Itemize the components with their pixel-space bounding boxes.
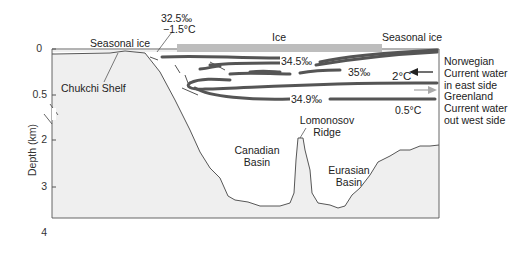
legend-norwegian-current: Norwegian Current water in east side bbox=[444, 55, 508, 91]
label-lomonosov-ridge: Lomonosov Ridge bbox=[296, 114, 358, 138]
tick-4: 4 bbox=[25, 226, 47, 238]
y-axis-label: Depth (km) bbox=[26, 124, 38, 176]
label-salinity-34-9: 34.9‰ bbox=[290, 93, 323, 105]
tick-0: 0 bbox=[20, 42, 42, 54]
label-seasonal-ice-right: Seasonal ice bbox=[382, 31, 442, 43]
label-temp-2: 2°C bbox=[392, 70, 411, 82]
label-inflow-temp: −1.5°C bbox=[163, 23, 196, 35]
label-chukchi-shelf: Chukchi Shelf bbox=[61, 82, 126, 94]
tick-3: 3 bbox=[25, 180, 47, 192]
ice-bar bbox=[177, 44, 382, 52]
legend-greenland-current: Greenland Current water out west side bbox=[444, 90, 508, 126]
label-salinity-35: 35‰ bbox=[348, 66, 370, 78]
label-eurasian-basin: Eurasian Basin bbox=[322, 164, 376, 188]
label-salinity-34-5: 34.5‰ bbox=[280, 55, 313, 67]
label-seasonal-ice-left: Seasonal ice bbox=[90, 37, 150, 49]
tick-0-5: 0.5 bbox=[25, 88, 47, 100]
label-canadian-basin: Canadian Basin bbox=[230, 144, 284, 168]
label-ice: Ice bbox=[272, 31, 286, 43]
label-temp-0-5: 0.5°C bbox=[395, 104, 421, 116]
